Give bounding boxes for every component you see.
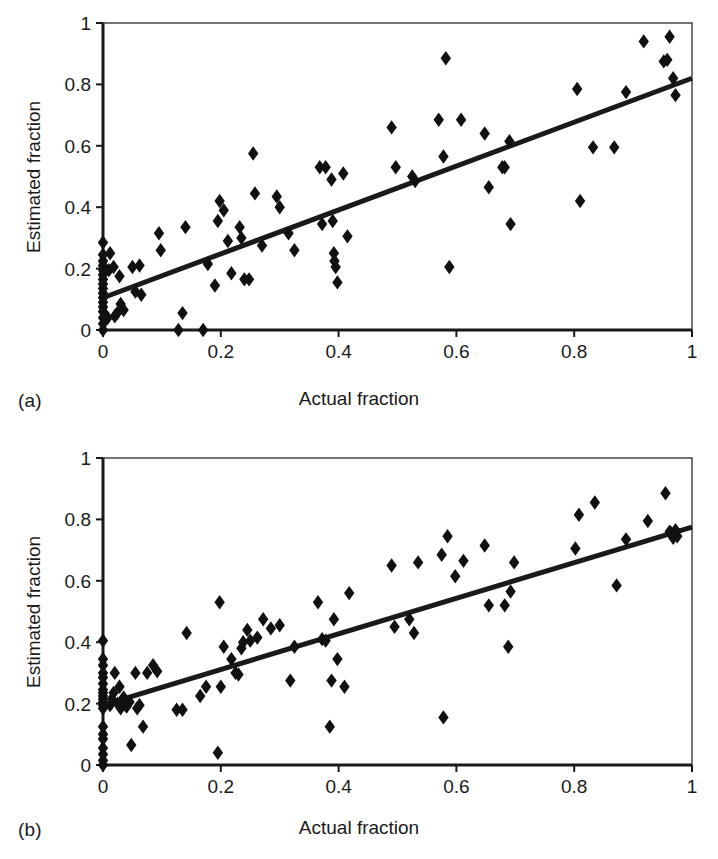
data-point-marker	[391, 160, 401, 174]
data-point-marker	[643, 514, 653, 528]
data-point-marker	[450, 569, 460, 583]
y-tick-label: 0.4	[65, 632, 92, 653]
data-point-marker	[386, 120, 396, 134]
data-point-marker	[173, 323, 183, 337]
data-point-marker	[195, 689, 205, 703]
data-point-marker	[177, 306, 187, 320]
data-point-marker	[156, 243, 166, 257]
data-point-marker	[126, 738, 136, 752]
data-point-marker	[409, 626, 419, 640]
data-point-marker	[609, 140, 619, 154]
data-point-marker	[484, 180, 494, 194]
x-tick-label: 0.6	[443, 776, 469, 797]
data-point-marker	[479, 538, 489, 552]
x-tick-label: 0.4	[325, 341, 352, 362]
data-point-marker	[98, 633, 108, 647]
scatter-series	[98, 30, 681, 338]
data-point-marker	[639, 34, 649, 48]
x-tick-label: 0.4	[325, 776, 352, 797]
data-point-marker	[210, 278, 220, 292]
y-tick-label: 1	[80, 13, 91, 34]
data-point-marker	[325, 719, 335, 733]
scatter-plot-a: 00.20.40.60.8100.20.40.60.81	[0, 0, 718, 430]
data-point-marker	[386, 558, 396, 572]
y-tick-label: 0.8	[65, 509, 91, 530]
data-point-marker	[219, 640, 229, 654]
data-point-marker	[339, 680, 349, 694]
data-point-marker	[505, 584, 515, 598]
data-point-marker	[130, 666, 140, 680]
y-tick-label: 0.6	[65, 136, 91, 157]
data-point-marker	[484, 598, 494, 612]
data-point-marker	[434, 113, 444, 127]
data-point-marker	[436, 548, 446, 562]
regression-line	[103, 527, 692, 705]
data-point-marker	[181, 626, 191, 640]
data-point-marker	[248, 146, 258, 160]
data-point-marker	[479, 126, 489, 140]
data-point-marker	[442, 529, 452, 543]
data-point-marker	[660, 486, 670, 500]
data-point-marker	[98, 235, 108, 249]
data-point-marker	[326, 172, 336, 186]
data-point-marker	[456, 113, 466, 127]
data-point-marker	[138, 719, 148, 733]
data-point-marker	[326, 673, 336, 687]
data-point-marker	[438, 149, 448, 163]
y-axis-title-b: Estimated fraction	[23, 535, 45, 687]
panel-label-b: (b)	[18, 819, 42, 841]
data-point-marker	[575, 194, 585, 208]
x-tick-label: 1	[687, 776, 698, 797]
data-point-marker	[213, 214, 223, 228]
y-tick-label: 0.2	[65, 694, 91, 715]
data-point-marker	[342, 229, 352, 243]
y-tick-label: 0.8	[65, 74, 91, 95]
data-point-marker	[275, 618, 285, 632]
panel-a: 00.20.40.60.8100.20.40.60.81 Estimated f…	[0, 0, 718, 430]
data-point-marker	[289, 243, 299, 257]
data-point-marker	[621, 85, 631, 99]
x-tick-label: 0.6	[443, 341, 469, 362]
y-tick-label: 0	[80, 755, 91, 776]
y-tick-label: 1	[80, 448, 91, 469]
data-point-marker	[320, 160, 330, 174]
data-point-marker	[413, 555, 423, 569]
y-tick-label: 0.4	[65, 197, 92, 218]
data-point-marker	[574, 508, 584, 522]
x-axis-title-b: Actual fraction	[0, 817, 718, 839]
data-point-marker	[389, 620, 399, 634]
x-tick-label: 0.8	[561, 341, 587, 362]
data-point-marker	[266, 621, 276, 635]
data-point-marker	[344, 586, 354, 600]
data-point-marker	[226, 266, 236, 280]
data-point-marker	[114, 269, 124, 283]
data-point-marker	[441, 51, 451, 65]
data-point-marker	[285, 673, 295, 687]
data-point-marker	[216, 680, 226, 694]
data-point-marker	[214, 595, 224, 609]
regression-line	[103, 78, 692, 298]
data-point-marker	[332, 652, 342, 666]
data-point-marker	[154, 226, 164, 240]
data-point-marker	[198, 323, 208, 337]
x-tick-label: 0	[98, 341, 109, 362]
scatter-plot-b: 00.20.40.60.8100.20.40.60.81	[0, 429, 718, 859]
data-point-marker	[438, 710, 448, 724]
figure-two-scatter-panels: 00.20.40.60.8100.20.40.60.81 Estimated f…	[0, 0, 718, 859]
data-point-marker	[289, 640, 299, 654]
data-point-marker	[250, 186, 260, 200]
y-tick-label: 0	[80, 320, 91, 341]
data-point-marker	[458, 554, 468, 568]
panel-b: 00.20.40.60.8100.20.40.60.81 Estimated f…	[0, 429, 718, 859]
data-point-marker	[134, 258, 144, 272]
data-point-marker	[201, 680, 211, 694]
data-point-marker	[332, 275, 342, 289]
data-point-marker	[338, 166, 348, 180]
scatter-series	[98, 486, 683, 772]
data-point-marker	[234, 220, 244, 234]
data-point-marker	[590, 495, 600, 509]
data-point-marker	[503, 640, 513, 654]
x-axis-title-a: Actual fraction	[0, 388, 718, 410]
x-tick-label: 0.2	[208, 341, 234, 362]
data-point-marker	[105, 246, 115, 260]
